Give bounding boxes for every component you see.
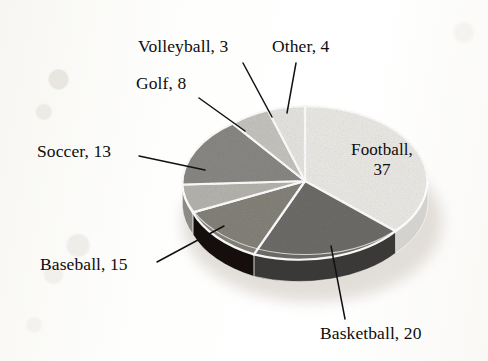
slice-label-basketball: Basketball, 20: [320, 323, 422, 344]
slice-label-other: Other, 4: [272, 36, 329, 57]
slice-label-football: Football, 37: [330, 140, 434, 180]
pie-chart-graphic: [0, 0, 488, 361]
slice-label-volleyball: Volleyball, 3: [138, 36, 228, 57]
slice-label-golf: Golf, 8: [136, 73, 186, 94]
slice-label-football-line2: 37: [373, 160, 390, 179]
leader-line-golf: [199, 98, 245, 131]
slice-label-baseball: Baseball, 15: [40, 254, 128, 275]
slice-label-football-line1: Football,: [351, 140, 413, 159]
pie-chart-figure: Football, 37 Volleyball, 3 Other, 4 Golf…: [0, 0, 488, 361]
slice-label-soccer: Soccer, 13: [37, 141, 111, 162]
leader-line-volleyball: [243, 63, 272, 117]
